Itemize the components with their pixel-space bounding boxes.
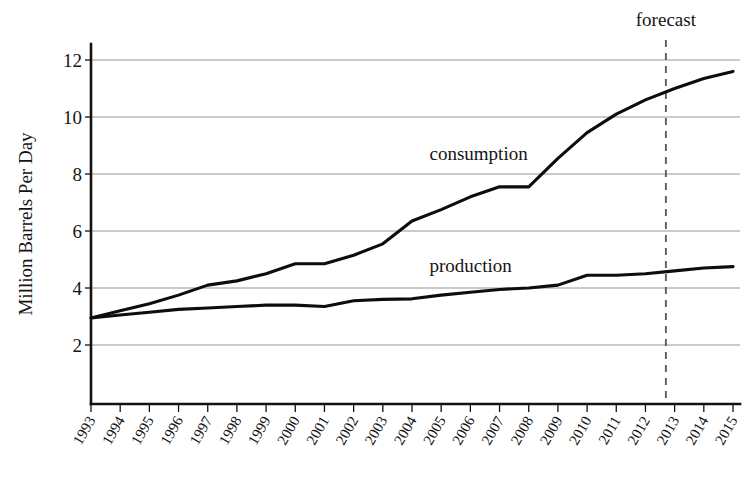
x-tick-label: 2004 — [391, 413, 420, 447]
x-tick-label: 2001 — [303, 414, 332, 448]
forecast-label: forecast — [636, 9, 697, 30]
x-tick-label: 1994 — [99, 413, 128, 447]
y-tick-label: 12 — [63, 50, 82, 71]
x-tick-label: 2013 — [653, 414, 682, 448]
x-tick-label: 1995 — [128, 414, 157, 448]
x-tick-label: 2010 — [566, 414, 595, 448]
x-tick-label: 2000 — [274, 414, 303, 448]
x-tick-label: 2011 — [595, 414, 624, 448]
y-tick-label: 2 — [73, 335, 83, 356]
series-line-consumption — [91, 71, 733, 318]
x-tick-label: 1998 — [216, 414, 245, 448]
y-tick-labels: 24681012 — [63, 50, 91, 356]
x-tick-label: 2012 — [624, 414, 653, 448]
x-tick-label: 2005 — [420, 414, 449, 448]
x-tick-label: 2002 — [332, 414, 361, 448]
x-tick-labels: 1993199419951996199719981999200020012002… — [70, 413, 741, 447]
x-tick-label: 2008 — [507, 414, 536, 448]
x-tick-label: 2014 — [683, 413, 712, 447]
x-tick-label: 1993 — [70, 414, 99, 448]
line-chart: 24681012 1993199419951996199719981999200… — [0, 0, 755, 485]
x-tick-label: 2003 — [362, 414, 391, 448]
x-tick-label: 1999 — [245, 414, 274, 448]
series-label-consumption: consumption — [430, 143, 529, 164]
series-label-production: production — [430, 255, 513, 276]
x-axis — [91, 404, 740, 412]
x-tick-label: 2006 — [449, 413, 478, 447]
y-axis-label: Million Barrels Per Day — [15, 132, 36, 316]
y-tick-label: 4 — [73, 278, 83, 299]
x-tick-label: 1996 — [157, 413, 186, 447]
chart-container: 24681012 1993199419951996199719981999200… — [0, 0, 755, 485]
x-tick-label: 2015 — [712, 414, 741, 448]
x-tick-label: 2007 — [478, 413, 507, 447]
x-tick-label: 1997 — [186, 413, 215, 447]
x-tick-label: 2009 — [537, 414, 566, 448]
y-tick-label: 8 — [73, 164, 83, 185]
y-tick-label: 6 — [73, 221, 83, 242]
y-tick-label: 10 — [63, 107, 82, 128]
